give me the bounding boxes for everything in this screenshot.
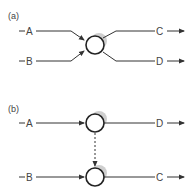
edge-c <box>103 31 155 38</box>
panel-a-label: (a) <box>8 11 19 21</box>
output-c-label: C <box>156 26 163 37</box>
panel-b-label: (b) <box>8 104 19 114</box>
input-a-label-b: A <box>26 118 33 129</box>
input-b-label: B <box>26 56 33 67</box>
output-c-label-b: C <box>156 172 163 183</box>
edge-d <box>103 52 155 61</box>
diagram: (a) A B C D (b) A D B C <box>0 0 196 192</box>
edge-b <box>36 51 84 61</box>
node-circle <box>86 36 104 54</box>
input-a-label: A <box>26 26 33 37</box>
panel-a: (a) A B C D <box>8 11 184 67</box>
output-d-label-b: D <box>156 118 163 129</box>
input-b-label-b: B <box>26 172 33 183</box>
node-top <box>86 114 104 132</box>
node-bottom <box>86 168 104 186</box>
edge-a <box>36 31 84 40</box>
output-d-label: D <box>156 56 163 67</box>
panel-b: (b) A D B C <box>8 104 184 186</box>
